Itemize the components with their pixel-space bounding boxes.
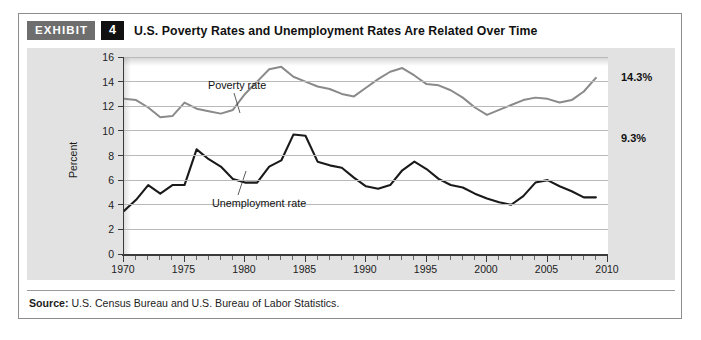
- gridline: [124, 204, 608, 205]
- x-tick-label: 1975: [172, 263, 195, 275]
- y-tick-label: 16: [102, 51, 114, 63]
- x-tick-minor: [389, 256, 390, 260]
- gridline: [124, 81, 608, 82]
- unemployment-rate-label: Unemployment rate: [212, 197, 306, 209]
- gridline: [124, 180, 608, 181]
- x-tick-major: [547, 256, 548, 262]
- x-tick-major: [305, 256, 306, 262]
- y-tick-label: 6: [108, 174, 114, 186]
- x-tick-minor: [353, 256, 354, 260]
- x-tick-minor: [571, 256, 572, 260]
- y-tick-mark: [118, 81, 123, 82]
- x-tick-minor: [450, 256, 451, 260]
- source-label: Source:: [29, 297, 68, 309]
- series-line: [124, 135, 596, 211]
- x-tick-label: 1985: [293, 263, 316, 275]
- y-tick-label: 14: [102, 76, 114, 88]
- y-tick-mark: [118, 180, 123, 181]
- x-tick-minor: [534, 256, 535, 260]
- y-tick-mark: [118, 254, 123, 255]
- gridline: [124, 106, 608, 107]
- x-tick-minor: [377, 256, 378, 260]
- x-tick-minor: [159, 256, 160, 260]
- x-tick-minor: [329, 256, 330, 260]
- exhibit-badge: EXHIBIT: [27, 21, 95, 39]
- x-tick-minor: [583, 256, 584, 260]
- unemployment-endpoint-label: 9.3%: [621, 132, 646, 144]
- y-tick-mark: [118, 57, 123, 58]
- x-tick-minor: [208, 256, 209, 260]
- y-axis-title: Percent: [67, 141, 79, 177]
- x-tick-minor: [317, 256, 318, 260]
- x-tick-minor: [220, 256, 221, 260]
- y-tick-label: 4: [108, 199, 114, 211]
- x-tick-major: [365, 256, 366, 262]
- source-divider: [27, 290, 675, 291]
- x-tick-label: 2005: [535, 263, 558, 275]
- x-tick-label: 2000: [474, 263, 497, 275]
- x-tick-label: 1970: [111, 263, 134, 275]
- x-tick-minor: [595, 256, 596, 260]
- x-tick-major: [486, 256, 487, 262]
- x-tick-label: 1980: [232, 263, 255, 275]
- plot-area: Poverty rateUnemployment rate: [123, 57, 608, 254]
- x-tick-minor: [498, 256, 499, 260]
- x-tick-minor: [280, 256, 281, 260]
- chart-panel: Percent Poverty rateUnemployment rate 14…: [27, 48, 675, 280]
- x-tick-minor: [474, 256, 475, 260]
- y-tick-mark: [118, 106, 123, 107]
- x-tick-major: [184, 256, 185, 262]
- exhibit-number-badge: 4: [101, 21, 124, 40]
- x-tick-minor: [256, 256, 257, 260]
- y-tick-mark: [118, 204, 123, 205]
- y-tick-mark: [118, 229, 123, 230]
- y-tick-mark: [118, 155, 123, 156]
- x-tick-minor: [196, 256, 197, 260]
- x-tick-minor: [401, 256, 402, 260]
- x-tick-label: 2010: [595, 263, 618, 275]
- x-tick-minor: [462, 256, 463, 260]
- series-line: [124, 67, 596, 117]
- x-tick-minor: [135, 256, 136, 260]
- y-tick-label: 8: [108, 150, 114, 162]
- gridline: [124, 155, 608, 156]
- x-tick-minor: [147, 256, 148, 260]
- x-tick-minor: [522, 256, 523, 260]
- x-tick-minor: [413, 256, 414, 260]
- x-tick-major: [244, 256, 245, 262]
- y-tick-label: 10: [102, 125, 114, 137]
- y-tick-label: 0: [108, 248, 114, 260]
- gridline: [124, 229, 608, 230]
- x-tick-minor: [438, 256, 439, 260]
- x-tick-minor: [232, 256, 233, 260]
- source-note: Source: U.S. Census Bureau and U.S. Bure…: [29, 297, 339, 309]
- x-tick-major: [123, 256, 124, 262]
- exhibit-title: U.S. Poverty Rates and Unemployment Rate…: [134, 24, 537, 38]
- x-tick-minor: [341, 256, 342, 260]
- x-tick-minor: [292, 256, 293, 260]
- x-tick-minor: [171, 256, 172, 260]
- x-tick-label: 1995: [414, 263, 437, 275]
- y-tick-label: 2: [108, 223, 114, 235]
- x-tick-label: 1990: [353, 263, 376, 275]
- exhibit-header: EXHIBIT 4 U.S. Poverty Rates and Unemplo…: [19, 14, 681, 47]
- x-tick-major: [426, 256, 427, 262]
- gridline: [124, 57, 608, 58]
- exhibit-card: EXHIBIT 4 U.S. Poverty Rates and Unemplo…: [18, 13, 682, 319]
- y-tick-label: 12: [102, 100, 114, 112]
- source-text: U.S. Census Bureau and U.S. Bureau of La…: [68, 297, 339, 309]
- x-tick-minor: [510, 256, 511, 260]
- poverty-rate-label: Poverty rate: [208, 79, 266, 91]
- poverty-endpoint-label: 14.3%: [621, 71, 652, 83]
- y-tick-mark: [118, 130, 123, 131]
- x-tick-minor: [268, 256, 269, 260]
- gridline: [124, 130, 608, 131]
- x-tick-major: [607, 256, 608, 262]
- x-tick-minor: [559, 256, 560, 260]
